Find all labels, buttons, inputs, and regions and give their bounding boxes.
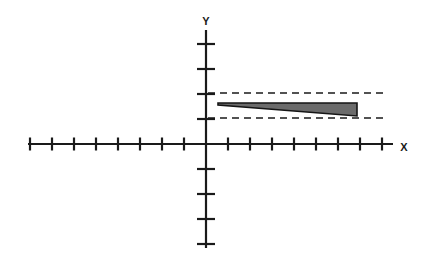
figure-canvas: X Y [0,0,424,261]
y-axis-label: Y [202,15,210,27]
x-axis-label: X [400,141,408,153]
coordinate-axes-figure: X Y [0,0,424,261]
figure-background [0,0,424,261]
